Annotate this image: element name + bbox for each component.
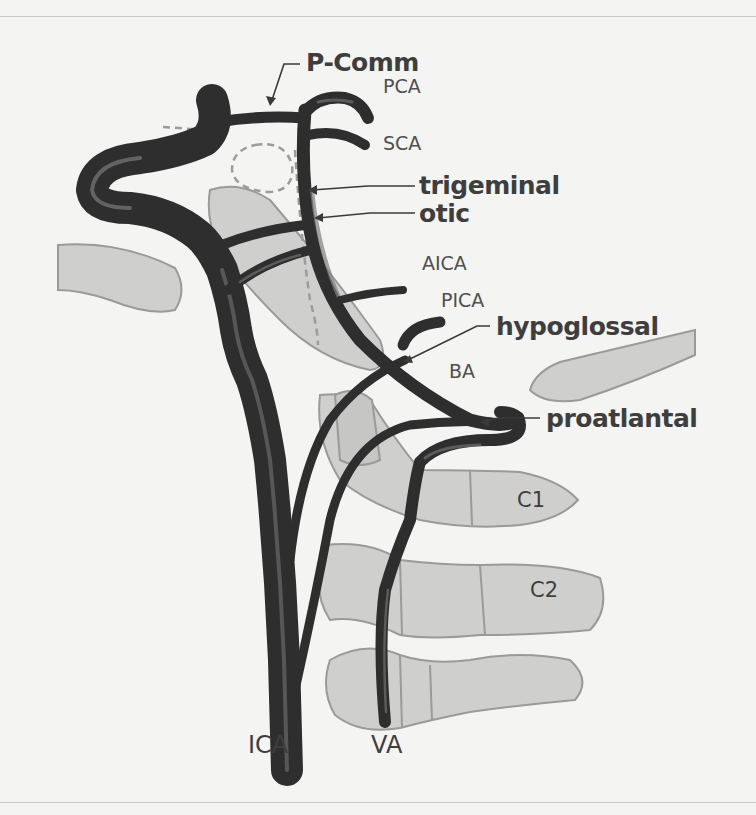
trigeminal-leader — [312, 186, 415, 190]
label-p-comm: P-Comm — [306, 50, 419, 75]
label-pca: PCA — [383, 77, 421, 96]
pica-vessel — [403, 322, 440, 345]
aica-vessel — [340, 290, 403, 300]
basilar-vessel — [303, 110, 518, 425]
pcomm-vessel — [218, 117, 305, 122]
label-c2: C2 — [530, 580, 558, 601]
sca-vessel — [308, 133, 365, 145]
otic-leader — [318, 213, 415, 218]
pcomm-leader — [272, 64, 300, 100]
label-aica: AICA — [422, 254, 467, 273]
petrous-shape — [58, 244, 182, 311]
label-ba: BA — [449, 362, 475, 381]
label-proatlantal: proatlantal — [546, 406, 697, 431]
label-ica: ICA — [248, 733, 288, 757]
label-va: VA — [371, 733, 402, 757]
label-sca: SCA — [383, 134, 421, 153]
label-otic: otic — [419, 201, 470, 226]
label-pica: PICA — [441, 291, 484, 310]
c2-vertebra — [319, 544, 604, 638]
label-trigeminal: trigeminal — [419, 173, 560, 198]
label-c1: C1 — [517, 490, 545, 511]
c3-vertebra — [326, 649, 582, 730]
label-hypoglossal: hypoglossal — [496, 314, 659, 339]
